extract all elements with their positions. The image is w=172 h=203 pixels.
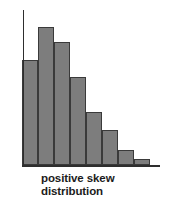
- positive-skew-histogram-figure: positive skew distribution: [0, 0, 172, 203]
- bar-2: [38, 27, 54, 165]
- caption-line-2: distribution: [41, 185, 166, 198]
- x-axis-baseline: [22, 165, 160, 167]
- bar-1: [22, 60, 38, 165]
- y-axis-line: [23, 10, 24, 165]
- caption-line-1: positive skew: [41, 172, 166, 185]
- bar-5: [86, 112, 102, 165]
- bars-container: [0, 0, 172, 170]
- chart-caption: positive skew distribution: [41, 172, 166, 197]
- bar-3: [54, 42, 70, 165]
- bar-4: [70, 77, 86, 165]
- chart-plot-area: [0, 0, 172, 170]
- bar-6: [102, 130, 118, 165]
- bar-7: [118, 150, 134, 165]
